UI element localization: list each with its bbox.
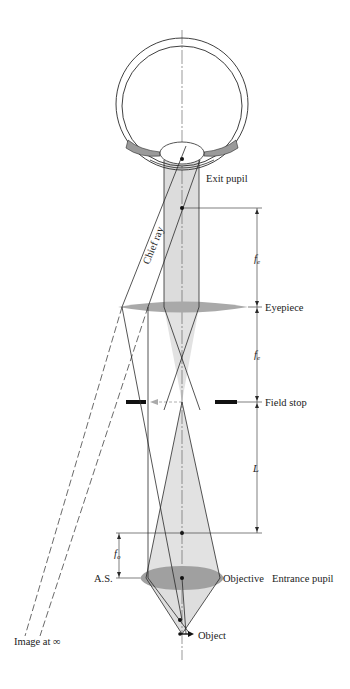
label-image-at-infinity: Image at ∞ xyxy=(14,636,61,647)
eyepiece-lens xyxy=(118,302,248,313)
label-aperture-stop: A.S. xyxy=(94,573,113,584)
field-stop-right xyxy=(215,400,237,404)
image-arrow-head xyxy=(150,399,158,405)
image-ray-dashed-2 xyxy=(40,307,148,636)
objective-center xyxy=(180,576,184,580)
image-ray-dashed-1 xyxy=(25,307,122,636)
label-entrance-pupil: Entrance pupil xyxy=(272,573,334,584)
label-eyepiece: Eyepiece xyxy=(265,302,304,313)
beam-eyepiece-to-eye xyxy=(164,160,199,307)
label-field-stop: Field stop xyxy=(265,397,307,408)
object-arrow-head xyxy=(188,631,194,637)
microscope-diagram: Exit pupil Chief ray Eyepiece Field stop… xyxy=(0,0,350,689)
label-objective: Objective xyxy=(223,573,264,584)
label-chief-ray: Chief ray xyxy=(141,224,166,265)
label-exit-pupil: Exit pupil xyxy=(206,173,248,184)
eyepiece-focal-point xyxy=(180,206,184,210)
dim-tube-length: L xyxy=(252,463,259,474)
dim-fo: fo xyxy=(114,548,121,561)
object-image-point xyxy=(178,618,182,622)
label-object: Object xyxy=(198,630,226,641)
field-stop-left xyxy=(126,400,146,404)
